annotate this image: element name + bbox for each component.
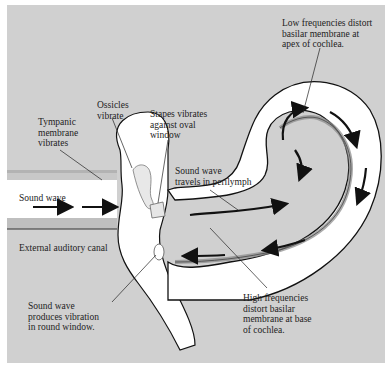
label-external-auditory-canal: External auditory canal: [19, 243, 108, 254]
label-high-frequencies: High frequencies distort basilar membran…: [243, 293, 312, 335]
inner-arrow-up: [295, 150, 302, 178]
label-low-frequencies: Low frequencies distort basilar membrane…: [282, 18, 372, 50]
label-tympanic-membrane: Tympanic membrane vibrates: [38, 117, 78, 149]
label-sound-wave-canal: Sound wave: [19, 193, 66, 204]
scala-tympani-arrow-2: [185, 255, 225, 256]
label-perilymph: Sound wave travels in perilymph: [175, 166, 252, 187]
label-round-window: Sound wave produces vibration in round w…: [28, 301, 99, 333]
middle-ear: [117, 112, 195, 350]
label-stapes: Stapes vibrates against oval window: [150, 109, 207, 141]
round-window: [154, 244, 164, 260]
stapes: [150, 202, 165, 218]
label-ossicles: Ossicles vibrate: [97, 100, 129, 121]
